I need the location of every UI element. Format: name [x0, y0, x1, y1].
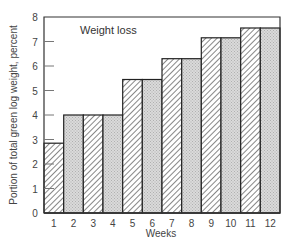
y-tick-label: 8 — [32, 12, 38, 23]
x-tick-label: 2 — [71, 218, 77, 229]
y-tick-label: 5 — [32, 86, 38, 97]
bar-week-3 — [83, 115, 103, 213]
bar-week-9 — [201, 38, 221, 213]
x-tick-label: 12 — [265, 218, 277, 229]
bar-week-5 — [123, 80, 143, 214]
bar-week-2 — [64, 115, 84, 213]
x-axis-title: Weeks — [146, 228, 176, 239]
y-tick-label: 4 — [32, 110, 38, 121]
y-tick-label: 6 — [32, 61, 38, 72]
y-axis-title: Portion of total green log weight, perce… — [8, 25, 19, 205]
plot-area — [44, 28, 280, 213]
bar-week-11 — [241, 28, 261, 213]
x-tick-label: 5 — [130, 218, 136, 229]
bar-week-7 — [162, 59, 182, 213]
x-tick-label: 11 — [245, 218, 256, 229]
y-tick-label: 3 — [32, 135, 38, 146]
y-tick-label: 2 — [32, 159, 38, 170]
x-tick-label: 3 — [90, 218, 96, 229]
bar-chart: 123456789101112012345678 Weight loss Wee… — [0, 0, 298, 250]
bar-week-8 — [182, 59, 202, 213]
x-tick-label: 4 — [110, 218, 116, 229]
bar-week-4 — [103, 115, 123, 213]
x-tick-label: 10 — [225, 218, 237, 229]
x-tick-label: 8 — [189, 218, 195, 229]
bar-week-1 — [44, 143, 64, 213]
x-tick-label: 1 — [51, 218, 57, 229]
bar-week-10 — [221, 38, 241, 213]
x-tick-label: 9 — [208, 218, 214, 229]
weight-loss-annotation: Weight loss — [80, 24, 137, 36]
y-tick-label: 7 — [32, 37, 38, 48]
y-tick-label: 1 — [32, 184, 38, 195]
y-tick-label: 0 — [32, 208, 38, 219]
bar-week-12 — [260, 28, 280, 213]
bar-week-6 — [142, 80, 162, 214]
